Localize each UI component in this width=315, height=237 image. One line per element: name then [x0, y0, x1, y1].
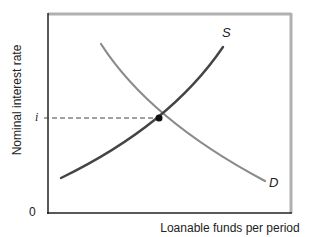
x-axis-label: Loanable funds per period — [160, 221, 299, 235]
loanable-funds-chart — [0, 0, 315, 237]
y-axis-label: Nominal interest rate — [10, 45, 24, 156]
supply-label: S — [222, 25, 231, 40]
origin-label: 0 — [29, 205, 36, 219]
demand-curve — [101, 44, 265, 181]
supply-curve — [61, 47, 223, 178]
equilibrium-point — [156, 115, 163, 122]
demand-label: D — [269, 175, 278, 190]
equilibrium-rate-label: i — [35, 110, 38, 125]
